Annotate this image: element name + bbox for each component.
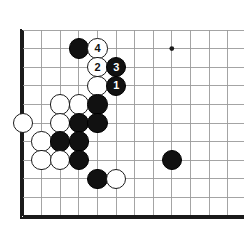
stone-move-number: 2 [95, 62, 101, 73]
go-board-grid [0, 0, 244, 231]
star-point [169, 46, 174, 51]
stone-white[interactable] [50, 94, 70, 114]
stone-white[interactable] [69, 94, 89, 114]
stone-white[interactable] [87, 76, 107, 96]
stone-white-move-2[interactable]: 2 [87, 57, 107, 77]
stone-black[interactable] [87, 113, 107, 133]
stone-black[interactable] [69, 131, 89, 151]
stone-white[interactable] [106, 169, 126, 189]
stone-black[interactable] [87, 94, 107, 114]
stone-move-number: 1 [113, 80, 119, 91]
stone-black[interactable] [50, 131, 70, 151]
stone-black-move-1[interactable]: 1 [106, 76, 126, 96]
stone-move-number: 3 [113, 62, 119, 73]
stone-move-number: 4 [95, 43, 101, 54]
go-diagram-figure: 4231 [0, 0, 244, 231]
stone-white[interactable] [31, 131, 51, 151]
stone-black[interactable] [69, 38, 89, 58]
stone-black[interactable] [87, 169, 107, 189]
stone-black[interactable] [69, 113, 89, 133]
stone-white[interactable] [31, 150, 51, 170]
stone-white-move-4[interactable]: 4 [87, 38, 107, 58]
